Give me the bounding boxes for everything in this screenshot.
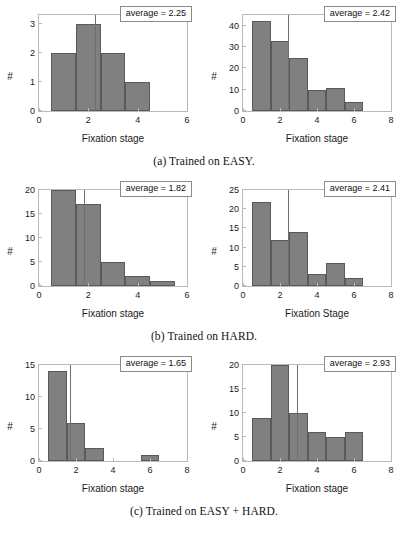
- histogram-bar: [51, 190, 76, 286]
- panel-row-a: # 02460123 Fixation stage average = 2.25…: [0, 0, 408, 152]
- subfigure-caption-a: (a) Trained on EASY.: [0, 152, 408, 175]
- x-tick: [280, 458, 281, 461]
- y-tick-label: 5: [30, 257, 35, 267]
- y-tick: [39, 428, 42, 429]
- average-annotation: average = 2.93: [324, 356, 396, 372]
- histogram-bar: [48, 371, 67, 461]
- x-tick-label: 4: [110, 465, 115, 475]
- y-tick-label: 10: [229, 85, 239, 95]
- x-axis-label: Fixation Stage: [242, 308, 392, 319]
- x-axis-label: Fixation stage: [38, 483, 188, 494]
- y-tick-label: 5: [30, 424, 35, 434]
- average-line: [95, 15, 96, 111]
- x-tick-label: 0: [36, 290, 41, 300]
- y-tick-label: 10: [229, 243, 239, 253]
- subfigure-caption-b: (b) Trained on HARD.: [0, 327, 408, 350]
- panel-b-right: # 024680510152025 Fixation Stage average…: [206, 175, 402, 327]
- histogram-bar: [252, 202, 271, 286]
- y-tick: [243, 388, 246, 389]
- y-tick-label: 0: [234, 106, 239, 116]
- x-tick-label: 8: [388, 290, 393, 300]
- y-tick: [243, 285, 246, 286]
- y-tick-label: 15: [229, 223, 239, 233]
- x-tick-label: 6: [184, 115, 189, 125]
- x-tick-label: 8: [184, 465, 189, 475]
- histogram-bar: [289, 58, 308, 111]
- subfigure-caption-c: (c) Trained on EASY + HARD.: [0, 502, 408, 525]
- y-tick: [243, 412, 246, 413]
- y-tick: [243, 25, 246, 26]
- plot-area: 0246805101520: [242, 364, 392, 462]
- average-line: [297, 365, 298, 461]
- y-tick: [39, 261, 42, 262]
- histogram-bar: [85, 448, 104, 461]
- y-tick-label: 0: [30, 456, 35, 466]
- x-tick: [187, 458, 188, 461]
- x-tick-label: 2: [277, 465, 282, 475]
- histogram-bar: [289, 413, 308, 461]
- x-axis-label: Fixation stage: [38, 133, 188, 144]
- histogram-bar: [51, 53, 76, 111]
- x-tick: [187, 283, 188, 286]
- x-tick-label: 4: [314, 115, 319, 125]
- panel-c-left: # 02468051015 Fixation stage average = 1…: [2, 350, 198, 502]
- histogram-bar: [76, 24, 101, 111]
- histogram-bar: [289, 232, 308, 286]
- y-tick-label: 20: [229, 63, 239, 73]
- y-tick-label: 20: [25, 185, 35, 195]
- y-tick: [39, 285, 42, 286]
- x-tick: [317, 283, 318, 286]
- x-tick-label: 0: [240, 115, 245, 125]
- average-annotation: average = 2.41: [324, 181, 396, 197]
- x-tick-label: 4: [135, 290, 140, 300]
- histogram-bar: [101, 53, 126, 111]
- y-axis-label: #: [4, 71, 16, 82]
- average-line: [288, 190, 289, 286]
- y-tick-label: 15: [229, 384, 239, 394]
- x-tick: [138, 108, 139, 111]
- average-line: [288, 15, 289, 111]
- y-tick: [39, 81, 42, 82]
- x-tick-label: 2: [277, 290, 282, 300]
- x-tick-label: 2: [73, 465, 78, 475]
- histogram-bar: [308, 432, 327, 461]
- y-tick: [243, 364, 246, 365]
- y-tick: [243, 67, 246, 68]
- y-tick-label: 2: [30, 48, 35, 58]
- x-tick: [113, 458, 114, 461]
- histogram-bar: [326, 88, 345, 111]
- histogram-bar: [76, 204, 101, 286]
- y-tick: [243, 189, 246, 190]
- histogram-bar: [101, 262, 126, 286]
- x-tick: [88, 283, 89, 286]
- histogram-bar: [125, 82, 150, 111]
- average-annotation: average = 1.82: [120, 181, 192, 197]
- histogram-bar: [252, 418, 271, 461]
- average-annotation: average = 2.25: [120, 6, 192, 22]
- x-tick-label: 8: [388, 465, 393, 475]
- bars-group: [243, 15, 391, 111]
- x-tick: [391, 108, 392, 111]
- figure-row-a: # 02460123 Fixation stage average = 2.25…: [0, 0, 408, 175]
- y-tick: [39, 189, 42, 190]
- x-tick-label: 6: [351, 115, 356, 125]
- x-tick-label: 0: [240, 465, 245, 475]
- plot-area: 024680510152025: [242, 189, 392, 287]
- y-tick-label: 5: [234, 262, 239, 272]
- y-tick: [243, 227, 246, 228]
- x-tick-label: 4: [314, 465, 319, 475]
- plot-area: 024605101520: [38, 189, 188, 287]
- histogram-bar: [271, 365, 290, 461]
- y-tick: [243, 460, 246, 461]
- histogram-bar: [326, 263, 345, 286]
- x-axis-label: Fixation stage: [242, 133, 392, 144]
- y-axis-label: #: [208, 246, 220, 257]
- histogram-bar: [271, 41, 290, 111]
- average-line: [84, 190, 85, 286]
- y-tick-label: 30: [229, 42, 239, 52]
- y-tick-label: 10: [25, 392, 35, 402]
- bars-group: [243, 365, 391, 461]
- histogram-bar: [326, 437, 345, 461]
- x-tick-label: 2: [86, 115, 91, 125]
- y-tick: [39, 237, 42, 238]
